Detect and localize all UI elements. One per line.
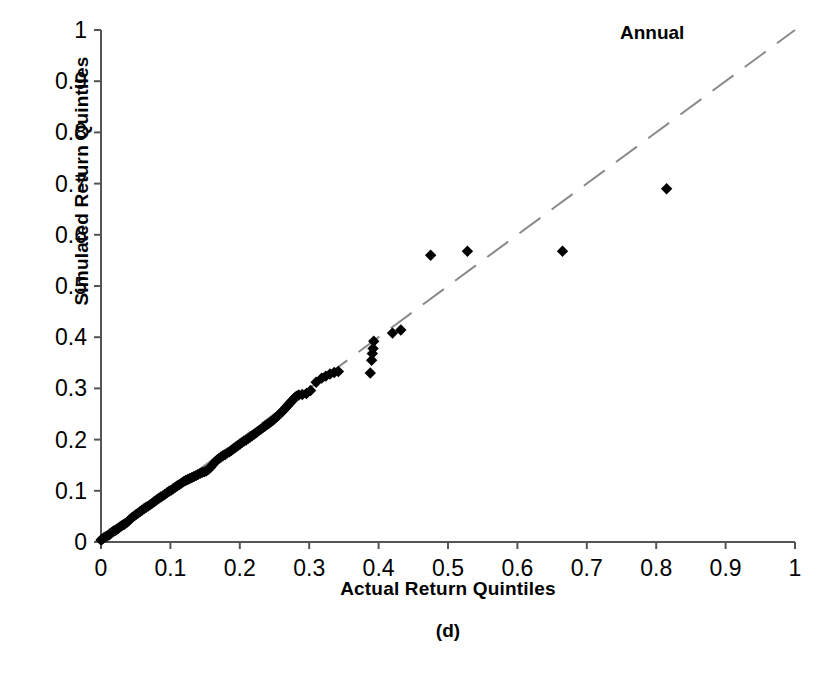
data-point-marker (462, 245, 473, 256)
qq-plot-figure: 00.10.20.30.40.50.60.70.80.91 00.10.20.3… (0, 0, 820, 679)
y-tick-label: 0 (74, 529, 87, 555)
scatter-markers (95, 183, 672, 546)
y-tick-label: 1 (74, 17, 87, 43)
y-tick-label: 0.1 (55, 478, 87, 504)
data-point-marker (557, 245, 568, 256)
annual-annotation: Annual (620, 22, 684, 44)
y-tick-label: 0.4 (55, 324, 87, 350)
y-axis-ticks (94, 30, 101, 542)
figure-caption: (d) (101, 620, 795, 642)
y-tick-label: 0.2 (55, 427, 87, 453)
reference-line-45-degree (101, 30, 795, 542)
data-point-marker (365, 367, 376, 378)
x-axis-label: Actual Return Quintiles (101, 578, 795, 600)
y-axis-label: Simulated Return Quintiles (71, 41, 93, 321)
x-axis-ticks (101, 542, 795, 549)
data-point-marker (661, 183, 672, 194)
y-tick-label: 0.3 (55, 375, 87, 401)
data-point-marker (425, 250, 436, 261)
